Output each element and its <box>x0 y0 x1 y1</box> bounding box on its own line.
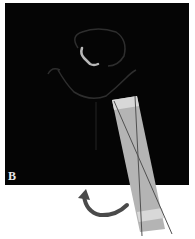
rotation-arrow-icon <box>78 189 127 215</box>
panel-label: B <box>8 170 16 182</box>
probe-icon <box>112 96 172 236</box>
bright-structure <box>81 48 98 65</box>
figure-overlay <box>0 0 195 239</box>
